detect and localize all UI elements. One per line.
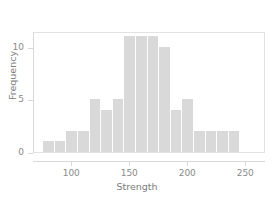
histogram-bar bbox=[113, 99, 125, 152]
histogram-bar bbox=[90, 99, 102, 152]
y-axis-title: Frequency bbox=[7, 36, 18, 116]
x-tick-label: 150 bbox=[109, 168, 149, 178]
histogram-bar bbox=[159, 47, 171, 152]
y-tick-mark bbox=[28, 100, 33, 101]
x-tick-label: 200 bbox=[167, 168, 207, 178]
y-tick-label: 0 bbox=[0, 148, 24, 157]
histogram-bar bbox=[182, 99, 194, 152]
histogram-bar bbox=[194, 131, 206, 152]
histogram-bar bbox=[171, 110, 183, 152]
bars-layer bbox=[34, 33, 264, 152]
histogram-bar bbox=[43, 141, 55, 152]
x-tick-mark bbox=[129, 161, 130, 166]
plot-area bbox=[33, 32, 265, 153]
histogram-bar bbox=[124, 36, 136, 152]
y-tick-mark bbox=[28, 48, 33, 49]
histogram-bar bbox=[136, 36, 148, 152]
histogram-bar bbox=[66, 131, 78, 152]
x-tick-mark bbox=[187, 161, 188, 166]
x-axis-title: Strength bbox=[0, 181, 274, 192]
histogram-bar bbox=[206, 131, 218, 152]
histogram-bar bbox=[148, 36, 160, 152]
histogram-bar bbox=[55, 141, 67, 152]
x-tick-label: 100 bbox=[51, 168, 91, 178]
histogram-bar bbox=[229, 131, 241, 152]
x-tick-label: 250 bbox=[225, 168, 265, 178]
y-axis-line bbox=[33, 32, 34, 153]
x-tick-mark bbox=[71, 161, 72, 166]
y-tick-mark bbox=[28, 153, 33, 154]
histogram-chart: 0510 Frequency 100150200250 Strength bbox=[0, 0, 274, 198]
histogram-bar bbox=[78, 131, 90, 152]
x-tick-mark bbox=[245, 161, 246, 166]
histogram-bar bbox=[101, 110, 113, 152]
x-axis-line bbox=[33, 161, 265, 162]
histogram-bar bbox=[217, 131, 229, 152]
